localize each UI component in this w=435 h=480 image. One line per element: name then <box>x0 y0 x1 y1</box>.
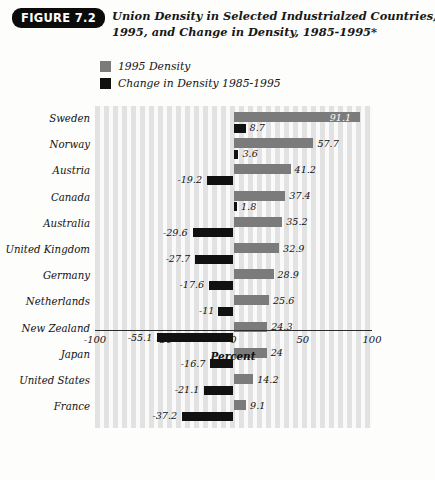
x-axis-tick-label: 0 <box>230 334 236 345</box>
bar-density <box>234 269 274 279</box>
x-axis-tick-label: -50 <box>156 334 172 345</box>
bar-value-label-density: 14.2 <box>257 375 278 385</box>
bar-value-label-density: 91.1 <box>330 113 351 123</box>
figure-header: FIGURE 7.2 Union Density in Selected Ind… <box>12 8 425 40</box>
bar-change <box>234 202 238 211</box>
legend-label-density: 1995 Density <box>118 60 190 73</box>
bar-value-label-density: 25.6 <box>273 296 294 306</box>
bar-value-label-change: -29.6 <box>163 228 188 238</box>
bar-density <box>234 217 283 227</box>
category-label: United States <box>0 375 90 386</box>
bar-value-label-change: 8.7 <box>250 123 265 133</box>
bar-value-label-density: 32.9 <box>283 244 304 254</box>
bar-density <box>234 191 286 201</box>
bar-value-label-change: -21.1 <box>175 385 200 395</box>
bar-change <box>234 150 239 159</box>
category-label: Austria <box>0 165 90 176</box>
bar-density <box>234 400 247 410</box>
chart-legend: 1995 Density Change in Density 1985-1995 <box>100 58 281 92</box>
category-label: France <box>0 401 90 412</box>
black-swatch-icon <box>100 78 111 89</box>
bar-value-label-change: -19.2 <box>177 175 202 185</box>
bar-value-label-density: 9.1 <box>250 401 265 411</box>
legend-label-change: Change in Density 1985-1995 <box>118 77 281 90</box>
category-label: Sweden <box>0 113 90 124</box>
bar-density <box>234 164 291 174</box>
legend-item-change: Change in Density 1985-1995 <box>100 75 281 92</box>
bar-change <box>182 412 234 421</box>
bar-change <box>234 124 246 133</box>
bar-density <box>234 138 314 148</box>
bar-change <box>193 228 234 237</box>
bar-change <box>207 176 234 185</box>
bar-value-label-density: 41.2 <box>295 165 316 175</box>
category-axis-labels: SwedenNorwayAustriaCanadaAustraliaUnited… <box>0 106 90 428</box>
bar-value-label-density: 57.7 <box>317 139 338 149</box>
x-axis-tick-label: 50 <box>296 334 309 345</box>
bar-density <box>234 243 280 253</box>
x-axis-line <box>95 330 372 331</box>
category-label: Canada <box>0 192 90 203</box>
category-label: Netherlands <box>0 296 90 307</box>
bar-value-label-change: -16.7 <box>181 359 206 369</box>
bar-value-label-change: -17.6 <box>180 280 205 290</box>
bar-value-label-density: 28.9 <box>278 270 299 280</box>
figure-number-badge: FIGURE 7.2 <box>12 8 105 28</box>
category-label: Japan <box>0 349 90 360</box>
bar-value-label-density: 35.2 <box>286 217 307 227</box>
bar-value-label-density: 37.4 <box>289 191 310 201</box>
plot-area-wrapper: SwedenNorwayAustriaCanadaAustraliaUnited… <box>0 106 435 480</box>
x-axis-title: Percent <box>211 350 256 362</box>
figure-title: Union Density in Selected Industrialzed … <box>112 8 412 40</box>
category-label: Germany <box>0 270 90 281</box>
bar-value-label-change: -37.2 <box>152 411 177 421</box>
bar-value-label-change: 1.8 <box>241 202 256 212</box>
category-label: New Zealand <box>0 323 90 334</box>
bar-value-label-change: -11 <box>199 306 214 316</box>
bar-value-label-change: -27.7 <box>166 254 191 264</box>
plot-panel: 91.18.757.73.641.2-19.237.41.835.2-29.63… <box>95 106 372 428</box>
bar-change <box>218 307 233 316</box>
figure-container: FIGURE 7.2 Union Density in Selected Ind… <box>0 0 435 480</box>
bar-density <box>234 295 269 305</box>
bar-change <box>209 281 233 290</box>
bar-density <box>234 374 254 384</box>
category-label: Norway <box>0 139 90 150</box>
bar-change <box>195 255 233 264</box>
category-label: United Kingdom <box>0 244 90 255</box>
gray-swatch-icon <box>100 61 111 72</box>
category-label: Australia <box>0 218 90 229</box>
figure-title-line-2: 1995, and Change in Density, 1985-1995* <box>112 24 412 40</box>
bar-value-label-density: 24 <box>271 348 283 358</box>
legend-item-density: 1995 Density <box>100 58 281 75</box>
x-axis-tick-label: -100 <box>84 334 106 345</box>
bar-value-label-change: 3.6 <box>242 149 257 159</box>
bar-value-label-change: -55.1 <box>128 333 153 343</box>
x-axis-tick-label: 100 <box>362 334 381 345</box>
bar-change <box>204 386 233 395</box>
figure-title-line-1: Union Density in Selected Industrialzed … <box>112 8 412 24</box>
